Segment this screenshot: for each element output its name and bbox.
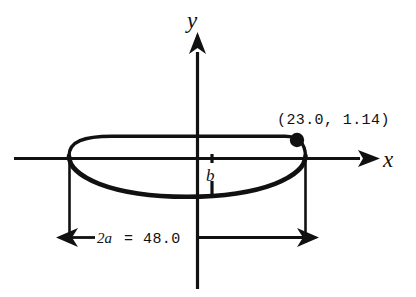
x-axis-label: x xyxy=(382,147,394,172)
major-axis-equals-sign: = xyxy=(124,231,133,248)
semi-minor-axis-label: b xyxy=(206,166,215,185)
y-axis-arrowhead-icon xyxy=(189,32,206,54)
semi-minor-dimension-group: b xyxy=(206,154,215,196)
point-coordinate-label: (23.0, 1.14) xyxy=(277,112,390,129)
ellipse-upper-arc xyxy=(69,136,306,156)
major-axis-dimension-group: 2a = 48.0 xyxy=(56,228,319,248)
ellipse-orbit xyxy=(69,136,306,197)
major-axis-value-label: 48.0 xyxy=(143,231,181,248)
diagram-canvas: (23.0, 1.14) b 2a = 48.0 xyxy=(0,0,416,297)
major-axis-symbol-label: 2a xyxy=(97,230,112,246)
y-axis-label: y xyxy=(185,8,198,33)
x-axis-arrowhead-icon xyxy=(358,150,380,167)
orbit-diagram-figure: (23.0, 1.14) b 2a = 48.0 xyxy=(0,0,416,297)
ellipse-lower-arc xyxy=(69,156,306,197)
marked-point-dot xyxy=(290,133,304,147)
y-axis-group xyxy=(189,32,206,289)
